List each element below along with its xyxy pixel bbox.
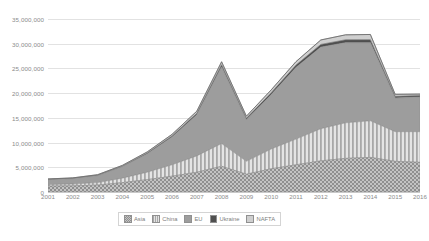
y-axis-tick-label: 10,000,000: [12, 139, 44, 146]
x-axis-tick-label: 2016: [413, 193, 427, 200]
x-axis-tick-label: 2009: [240, 193, 254, 200]
x-axis-tick-label: 2006: [165, 193, 179, 200]
x-axis-tick-label: 2015: [388, 193, 402, 200]
stacked-area-series: [48, 19, 420, 192]
legend-item-eu[interactable]: EU: [184, 215, 202, 223]
x-axis-tick-label: 2007: [190, 193, 204, 200]
legend-swatch-eu: [184, 215, 192, 223]
y-axis-tick-label: 5,000,000: [16, 164, 44, 171]
chart-legend: AsiaChinaEUUkraineNAFTA: [118, 212, 281, 226]
x-axis-tick-label: 2002: [66, 193, 80, 200]
x-axis-tick-label: 2010: [264, 193, 278, 200]
legend-label: China: [162, 216, 177, 222]
x-axis-labels: 2001200220032004200520062007200820092010…: [48, 193, 420, 205]
legend-item-china[interactable]: China: [152, 215, 177, 223]
x-axis-tick-label: 2012: [314, 193, 328, 200]
x-axis-tick-label: 2014: [364, 193, 378, 200]
legend-item-ukraine[interactable]: Ukraine: [210, 215, 240, 223]
y-axis-tick-label: 15,000,000: [12, 114, 44, 121]
legend-item-asia[interactable]: Asia: [124, 215, 145, 223]
x-axis-tick-label: 2005: [140, 193, 154, 200]
legend-item-nafta[interactable]: NAFTA: [246, 215, 275, 223]
legend-label: Asia: [134, 216, 145, 222]
plot-area: [48, 19, 420, 192]
x-axis-tick-label: 2001: [41, 193, 55, 200]
legend-label: Ukraine: [220, 216, 240, 222]
legend-swatch-china: [152, 215, 160, 223]
legend-swatch-asia: [124, 215, 132, 223]
x-axis-tick-label: 2003: [91, 193, 105, 200]
x-axis-tick-label: 2004: [116, 193, 130, 200]
x-axis-tick-label: 2011: [289, 193, 302, 200]
chart-screenshot: 05,000,00010,000,00015,000,00020,000,000…: [0, 0, 429, 241]
y-axis-tick-label: 20,000,000: [12, 90, 44, 97]
y-axis-labels: 05,000,00010,000,00015,000,00020,000,000…: [0, 19, 44, 192]
legend-label: EU: [194, 216, 202, 222]
y-axis-tick-label: 30,000,000: [12, 40, 44, 47]
y-axis-tick-label: 25,000,000: [12, 65, 44, 72]
x-axis-tick-label: 2013: [339, 193, 353, 200]
legend-swatch-ukraine: [210, 215, 218, 223]
x-axis-tick-label: 2008: [215, 193, 229, 200]
legend-swatch-nafta: [246, 215, 254, 223]
y-axis-tick-label: 35,000,000: [12, 16, 44, 23]
legend-label: NAFTA: [256, 216, 275, 222]
